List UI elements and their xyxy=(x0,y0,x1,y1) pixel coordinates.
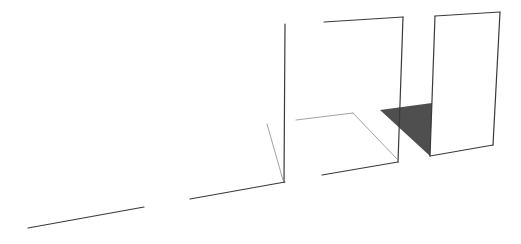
shaded-faces xyxy=(380,103,432,156)
panel2-top-edge xyxy=(324,17,403,22)
floor-back-edge xyxy=(296,113,353,120)
shadow-triangle xyxy=(380,103,432,156)
panel2-bottom-edge xyxy=(322,162,398,175)
panel1-diagonal-edge xyxy=(267,124,283,180)
ground-line-left xyxy=(28,207,144,228)
panel3-top-edge xyxy=(435,12,500,16)
panel1-vertical-edge xyxy=(284,24,285,182)
panel2-right-edge xyxy=(398,17,403,162)
3d-panels-diagram xyxy=(0,0,521,244)
panel3-left-edge xyxy=(430,16,435,156)
ground-line-middle xyxy=(190,182,285,199)
panel3-bottom-edge xyxy=(430,145,493,156)
panel3-right-edge xyxy=(493,12,500,145)
